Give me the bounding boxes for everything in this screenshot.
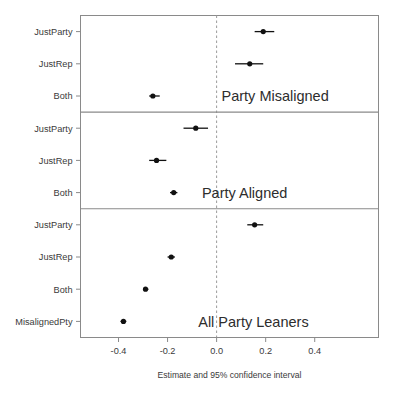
y-axis-label: JustParty <box>34 124 73 134</box>
x-axis-title: Estimate and 95% confidence interval <box>158 370 302 380</box>
y-axis-label: Both <box>54 91 73 101</box>
estimate-point <box>261 29 266 34</box>
x-axis-tick-label: 0.0 <box>210 346 223 356</box>
x-axis-tick-label: 0.4 <box>308 346 321 356</box>
y-axis-label: Both <box>54 285 73 295</box>
panel-title: Party Misaligned <box>222 88 329 104</box>
estimate-point <box>193 126 198 131</box>
y-axis-label: JustRep <box>39 252 73 262</box>
y-axis-label: JustParty <box>34 220 73 230</box>
y-axis-label: MisalignedPty <box>15 317 73 327</box>
y-axis-label: JustRep <box>39 156 73 166</box>
estimate-point <box>121 319 126 324</box>
y-axis-label: Both <box>54 188 73 198</box>
forest-plot-svg: JustPartyJustRepBothParty MisalignedJust… <box>0 0 394 393</box>
x-axis-tick-label: 0.2 <box>259 346 272 356</box>
x-axis-tick-label: -0.4 <box>111 346 127 356</box>
x-axis-tick-label: -0.2 <box>160 346 176 356</box>
estimate-point <box>169 254 174 259</box>
estimate-point <box>171 190 176 195</box>
estimate-point <box>150 93 155 98</box>
plot-frame <box>81 16 379 338</box>
estimate-point <box>143 287 148 292</box>
estimate-point <box>252 222 257 227</box>
panel-title: Party Aligned <box>202 185 287 201</box>
forest-plot-figure: JustPartyJustRepBothParty MisalignedJust… <box>0 0 394 393</box>
panel-title: All Party Leaners <box>198 314 308 330</box>
estimate-point <box>247 61 252 66</box>
y-axis-label: JustParty <box>34 27 73 37</box>
y-axis-label: JustRep <box>39 59 73 69</box>
estimate-point <box>154 158 159 163</box>
